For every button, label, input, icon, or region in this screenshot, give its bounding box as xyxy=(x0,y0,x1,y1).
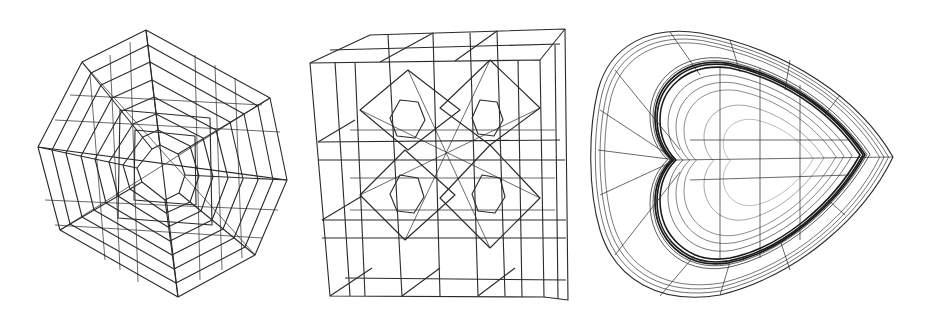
heart-mesh xyxy=(0,0,926,325)
figure xyxy=(0,0,926,325)
